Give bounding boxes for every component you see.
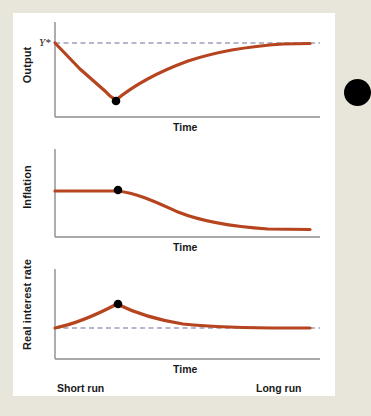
inflation-kink-marker — [114, 186, 123, 195]
rir-time-label: Time — [173, 363, 197, 375]
inflation-curve — [55, 191, 310, 230]
chart-panel-inflation: Inflation Time — [13, 141, 335, 261]
long-run-label: Long run — [256, 382, 302, 394]
figure-card: Output Y* Time Inflation Time — [13, 13, 335, 396]
rir-curve — [55, 304, 310, 328]
chart-panel-output: Output Y* Time — [13, 13, 335, 141]
inflation-axis-label: Inflation — [21, 159, 33, 215]
rir-axis-label: Real interest rate — [21, 264, 33, 350]
rir-peak-marker — [114, 300, 123, 309]
black-circle-decoration — [344, 79, 371, 106]
output-axis-label: Output — [21, 37, 33, 93]
inflation-time-label: Time — [173, 241, 197, 253]
chart-panel-real-interest-rate: Real interest rate Time — [13, 261, 335, 383]
output-time-label: Time — [173, 121, 197, 133]
ystar-label: Y* — [39, 36, 51, 48]
output-curve — [55, 43, 310, 100]
short-run-label: Short run — [57, 382, 104, 394]
output-trough-marker — [112, 97, 121, 106]
